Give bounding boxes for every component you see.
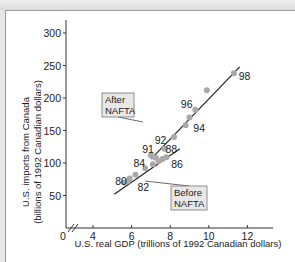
point-label-80: 80 — [115, 175, 127, 187]
data-point-95 — [187, 115, 193, 121]
y-axis-title-line1: U.S. imports from Canada — [20, 96, 31, 207]
y-tick-label: 100 — [43, 157, 61, 169]
point-label-84: 84 — [134, 157, 146, 169]
data-point-98 — [231, 70, 237, 76]
data-point-97 — [204, 87, 210, 93]
data-point-82 — [127, 176, 133, 182]
data-point-91 — [153, 155, 159, 161]
origin-label: 0 — [60, 230, 66, 242]
data-point-94 — [183, 122, 189, 128]
annotation-label-line2: NAFTA — [174, 198, 205, 209]
axes: 501001502002503004681012 — [43, 20, 273, 242]
point-label-91: 91 — [142, 143, 154, 155]
y-tick-label: 50 — [49, 190, 61, 202]
annotation-pointer — [118, 117, 143, 122]
data-point-96 — [192, 107, 198, 113]
data-point-85 — [150, 161, 156, 167]
y-axis-title-line2: (billions of 1992 Canadian dollars) — [32, 80, 43, 224]
y-tick-label: 300 — [43, 27, 61, 39]
annotation-label-line1: After — [105, 94, 125, 105]
annotation-label-line1: Before — [174, 187, 202, 198]
y-tick-label: 200 — [43, 92, 61, 104]
y-tick-label: 150 — [43, 125, 61, 137]
point-label-92: 92 — [155, 134, 167, 146]
point-label-88: 88 — [165, 143, 177, 155]
scatter-chart: 501001502002503004681012 808284868891929… — [0, 0, 295, 262]
annotation-label-line2: NAFTA — [105, 105, 136, 116]
y-tick-label: 250 — [43, 60, 61, 72]
annotation-pointer — [145, 181, 189, 186]
point-label-96: 96 — [181, 98, 193, 110]
data-point-93 — [171, 134, 177, 140]
point-label-86: 86 — [171, 158, 183, 170]
point-label-98: 98 — [239, 70, 251, 82]
x-axis-title: U.S. real GDP (trillions of 1992 Canadia… — [75, 238, 282, 249]
data-point-83 — [132, 172, 138, 178]
point-label-82: 82 — [137, 181, 149, 193]
point-label-94: 94 — [193, 122, 205, 134]
